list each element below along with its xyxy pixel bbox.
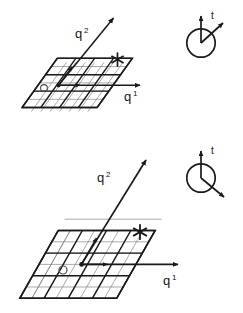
- clock-hand-arrow-top: [201, 23, 223, 43]
- q1-axis-label-top: q 1: [124, 89, 138, 104]
- upper-lattice-panel: q 2 q 1 t: [22, 10, 223, 112]
- orientation-circle-top: t: [187, 10, 223, 57]
- origin-dot-top: [56, 83, 60, 87]
- svg-text:q: q: [97, 170, 104, 185]
- svg-text:q: q: [75, 26, 82, 41]
- t-label-bottom: t: [211, 145, 214, 156]
- svg-text:q: q: [124, 89, 131, 104]
- svg-text:2: 2: [84, 26, 89, 35]
- svg-text:2: 2: [106, 170, 111, 179]
- origin-dot-bottom: [79, 262, 84, 267]
- q1-axis-label-bottom: q 1: [163, 273, 177, 288]
- basis-vector-2-top: [59, 67, 73, 86]
- grid-minor-lines-b: [31, 62, 122, 111]
- figure-canvas: q 2 q 1 t: [0, 0, 243, 313]
- figure-svg: q 2 q 1 t: [0, 0, 243, 313]
- svg-text:1: 1: [133, 89, 138, 98]
- orientation-circle-bottom: t: [187, 145, 224, 197]
- svg-text:q: q: [163, 273, 170, 288]
- q2-axis-label-top: q 2: [75, 26, 89, 41]
- asterisk-marker-bottom: [134, 225, 147, 239]
- clock-hand-arrow-bottom: [201, 178, 224, 197]
- svg-text:1: 1: [172, 273, 177, 282]
- t-label-top: t: [211, 10, 214, 21]
- lower-lattice-panel: q 2 q 1 t: [20, 145, 224, 298]
- open-circle-marker-top: [41, 85, 48, 92]
- q2-axis-label-bottom: q 2: [97, 170, 111, 185]
